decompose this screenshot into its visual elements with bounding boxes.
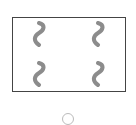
squiggle-icon [91, 21, 105, 47]
select-radio-button[interactable] [62, 113, 74, 125]
symbol-card[interactable] [12, 17, 126, 92]
squiggle-icon [91, 61, 105, 87]
squiggle-icon [32, 21, 46, 47]
squiggle-icon [32, 61, 46, 87]
